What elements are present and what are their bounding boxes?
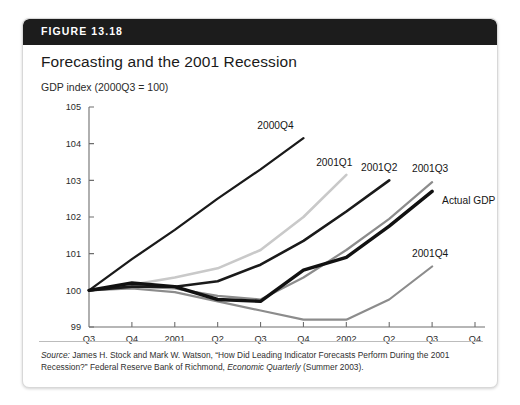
series-label: 2001Q3 [412,163,449,174]
y-tick-label: 103 [66,176,81,186]
series-line [89,191,432,301]
x-tick-label: 2001 [165,334,185,344]
x-tick-label: Q3 [254,334,266,344]
series-line [89,267,432,320]
y-tick-label: 102 [66,212,81,222]
y-tick-label: 99 [71,322,81,332]
series-label: 2000Q4 [257,120,294,131]
y-tick-label: 100 [66,286,81,296]
series-line [89,182,432,299]
y-tick-label: 101 [66,249,81,259]
series-line [89,138,303,290]
y-tick-label: 105 [66,102,81,112]
chart-axes [89,107,485,327]
x-tick-label: Q2 [212,334,224,344]
y-tick-label: 104 [66,139,81,149]
y-axis-caption: GDP index (2000Q3 = 100) [41,81,168,93]
figure-number-label: FIGURE 13.18 [41,25,123,37]
figure-header-bar: FIGURE 13.18 [23,19,497,45]
x-tick-label: Q4 [297,334,309,344]
x-tick-label: Q3 [426,334,438,344]
series-label: 2001Q1 [316,157,353,168]
x-tick-label: Q4 [469,334,481,344]
series-label: Actual GDP [442,195,495,206]
x-tick-label: Q4 [126,334,138,344]
series-label: 2001Q4 [412,248,449,259]
source-divider [39,341,483,342]
figure-page: FIGURE 13.18 Forecasting and the 2001 Re… [0,0,520,405]
x-tick-label: Q3 [83,334,95,344]
series-line [89,175,346,290]
figure-title: Forecasting and the 2001 Recession [41,53,297,71]
chart-plot-area: Actual GDP2000Q42001Q12001Q22001Q32001Q4… [23,97,498,345]
series-line [89,180,389,290]
chart-y-tick-labels: 99100101102103104105 [66,102,81,332]
source-journal-title: Economic Quarterly [227,362,301,372]
line-chart: Actual GDP2000Q42001Q12001Q22001Q32001Q4… [23,97,498,345]
source-note: Source: James H. Stock and Mark W. Watso… [41,349,481,373]
series-label: 2001Q2 [361,162,398,173]
source-body-second: (Summer 2003). [301,362,364,372]
source-prefix: Source: [41,350,70,360]
chart-x-tick-labels: Q3Q42001Q2Q3Q42002Q2Q3Q4 [83,334,481,344]
x-tick-label: Q2 [383,334,395,344]
figure-card: FIGURE 13.18 Forecasting and the 2001 Re… [22,18,498,388]
x-tick-label: 2002 [336,334,356,344]
